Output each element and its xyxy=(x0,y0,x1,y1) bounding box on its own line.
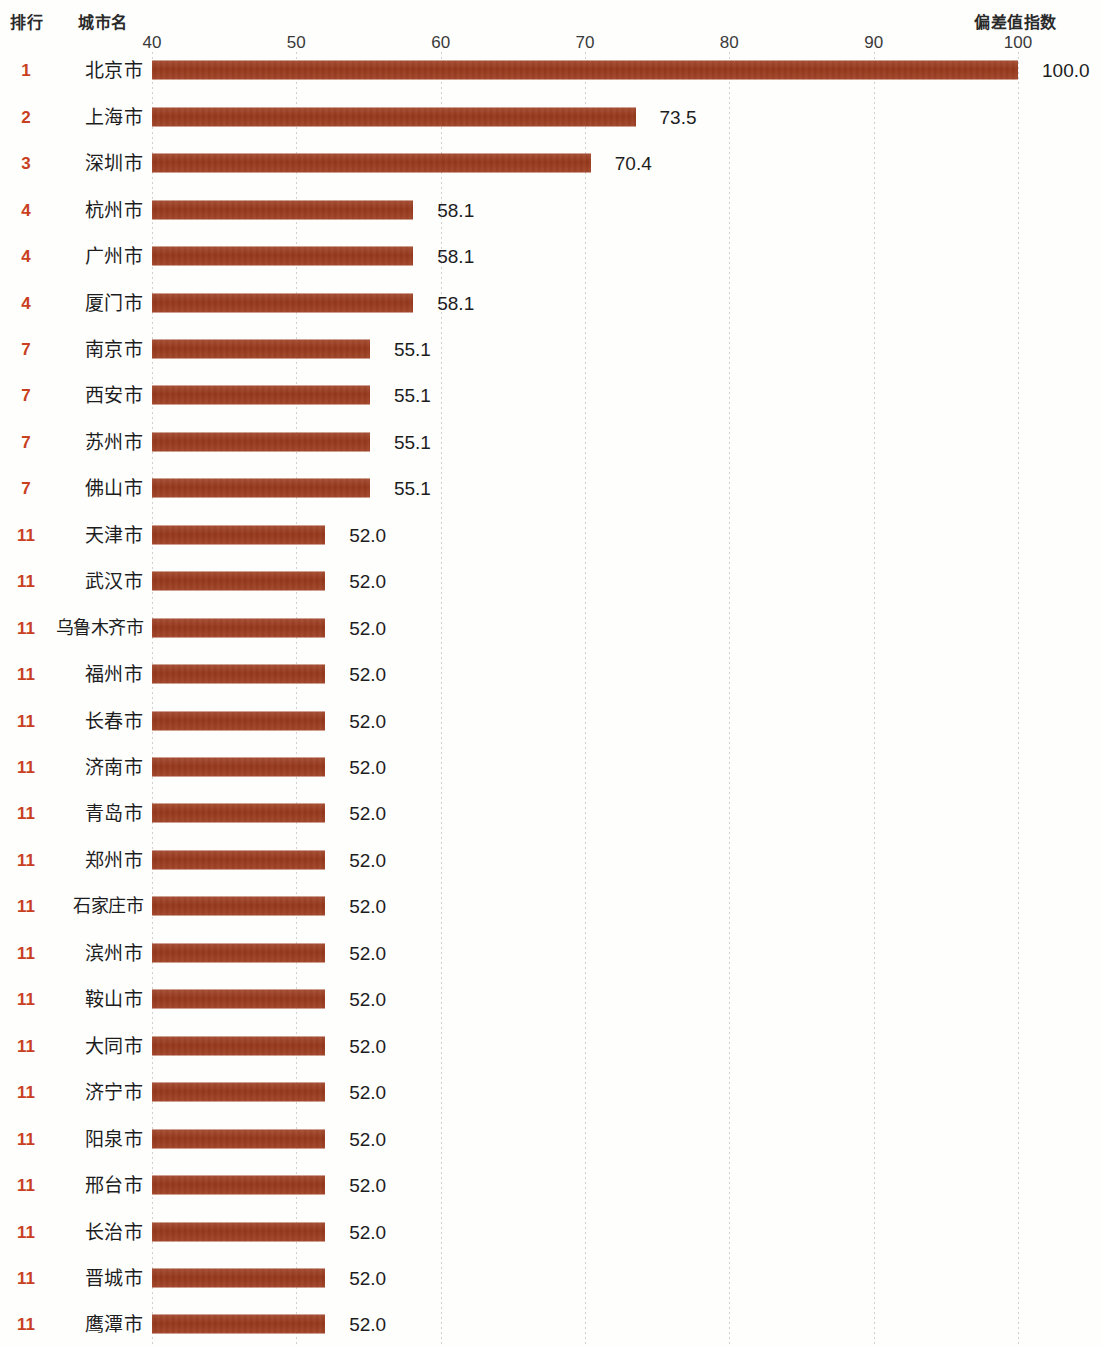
ranking-chart-page: 排行 城市名 偏差值指数 405060708090100 1北京市100.02上… xyxy=(0,0,1103,1346)
row-bar[interactable] xyxy=(152,665,325,684)
row-value-label: 100.0 xyxy=(1042,61,1090,80)
row-bar[interactable] xyxy=(152,1176,325,1195)
row-bar[interactable] xyxy=(152,572,325,591)
row-bar[interactable] xyxy=(152,1268,325,1287)
row-bar[interactable] xyxy=(152,525,325,544)
row-city-name: 天津市 xyxy=(38,525,143,544)
row-city-name: 深圳市 xyxy=(38,154,143,173)
row-value-label: 55.1 xyxy=(394,479,431,498)
chart-row[interactable]: 11济南市52.0 xyxy=(0,744,1103,791)
row-bar[interactable] xyxy=(152,1315,325,1334)
row-bar[interactable] xyxy=(152,154,591,173)
row-bar[interactable] xyxy=(152,432,370,451)
row-value-label: 52.0 xyxy=(349,758,386,777)
chart-row[interactable]: 11滨州市52.0 xyxy=(0,930,1103,977)
row-bar[interactable] xyxy=(152,1083,325,1102)
column-header-metric: 偏差值指数 xyxy=(974,9,1057,33)
row-city-name: 北京市 xyxy=(38,61,143,80)
row-value-label: 52.0 xyxy=(349,897,386,916)
row-city-name: 大同市 xyxy=(38,1036,143,1055)
row-value-label: 52.0 xyxy=(349,1315,386,1334)
chart-row[interactable]: 7佛山市55.1 xyxy=(0,465,1103,512)
row-value-label: 52.0 xyxy=(349,1268,386,1287)
chart-row[interactable]: 11青岛市52.0 xyxy=(0,790,1103,837)
chart-row[interactable]: 7苏州市55.1 xyxy=(0,419,1103,466)
chart-row[interactable]: 11晋城市52.0 xyxy=(0,1255,1103,1302)
row-value-label: 52.0 xyxy=(349,1222,386,1241)
chart-row[interactable]: 11阳泉市52.0 xyxy=(0,1115,1103,1162)
chart-row[interactable]: 11乌鲁木齐市52.0 xyxy=(0,604,1103,651)
row-value-label: 52.0 xyxy=(349,711,386,730)
row-bar[interactable] xyxy=(152,247,413,266)
chart-row[interactable]: 11济宁市52.0 xyxy=(0,1069,1103,1116)
row-value-label: 52.0 xyxy=(349,1176,386,1195)
chart-plot-area: 1北京市100.02上海市73.53深圳市70.44杭州市58.14广州市58.… xyxy=(0,52,1103,1346)
row-bar[interactable] xyxy=(152,758,325,777)
row-bar[interactable] xyxy=(152,850,325,869)
row-value-label: 55.1 xyxy=(394,386,431,405)
row-bar[interactable] xyxy=(152,618,325,637)
chart-row[interactable]: 11长治市52.0 xyxy=(0,1208,1103,1255)
row-city-name: 长春市 xyxy=(38,711,143,730)
column-header-rank: 排行 xyxy=(10,9,43,33)
chart-row[interactable]: 1北京市100.0 xyxy=(0,47,1103,94)
chart-row[interactable]: 7西安市55.1 xyxy=(0,372,1103,419)
chart-row[interactable]: 11大同市52.0 xyxy=(0,1022,1103,1069)
chart-row[interactable]: 11福州市52.0 xyxy=(0,651,1103,698)
row-bar[interactable] xyxy=(152,479,370,498)
chart-row[interactable]: 11长春市52.0 xyxy=(0,697,1103,744)
row-bar[interactable] xyxy=(152,386,370,405)
row-city-name: 南京市 xyxy=(38,339,143,358)
chart-row[interactable]: 11邢台市52.0 xyxy=(0,1162,1103,1209)
row-value-label: 52.0 xyxy=(349,525,386,544)
row-value-label: 52.0 xyxy=(349,850,386,869)
row-bar[interactable] xyxy=(152,804,325,823)
row-city-name: 鞍山市 xyxy=(38,990,143,1009)
chart-row[interactable]: 11天津市52.0 xyxy=(0,512,1103,559)
row-bar[interactable] xyxy=(152,1222,325,1241)
row-value-label: 58.1 xyxy=(437,200,474,219)
row-city-name: 苏州市 xyxy=(38,432,143,451)
row-city-name: 滨州市 xyxy=(38,943,143,962)
chart-row[interactable]: 4厦门市58.1 xyxy=(0,279,1103,326)
row-value-label: 52.0 xyxy=(349,572,386,591)
row-bar[interactable] xyxy=(152,711,325,730)
row-bar[interactable] xyxy=(152,107,636,126)
row-bar[interactable] xyxy=(152,990,325,1009)
row-value-label: 52.0 xyxy=(349,990,386,1009)
row-value-label: 73.5 xyxy=(660,107,697,126)
row-value-label: 52.0 xyxy=(349,618,386,637)
row-value-label: 52.0 xyxy=(349,804,386,823)
row-city-name: 石家庄市 xyxy=(38,897,143,915)
chart-row[interactable]: 11郑州市52.0 xyxy=(0,837,1103,884)
chart-row[interactable]: 4广州市58.1 xyxy=(0,233,1103,280)
row-city-name: 武汉市 xyxy=(38,572,143,591)
row-bar[interactable] xyxy=(152,943,325,962)
chart-row[interactable]: 3深圳市70.4 xyxy=(0,140,1103,187)
row-city-name: 鹰潭市 xyxy=(38,1315,143,1334)
row-city-name: 青岛市 xyxy=(38,804,143,823)
row-bar[interactable] xyxy=(152,339,370,358)
row-value-label: 58.1 xyxy=(437,293,474,312)
chart-row[interactable]: 11石家庄市52.0 xyxy=(0,883,1103,930)
row-bar[interactable] xyxy=(152,1129,325,1148)
row-city-name: 佛山市 xyxy=(38,479,143,498)
row-bar[interactable] xyxy=(152,200,413,219)
row-city-name: 广州市 xyxy=(38,247,143,266)
row-bar[interactable] xyxy=(152,61,1018,80)
chart-row[interactable]: 2上海市73.5 xyxy=(0,93,1103,140)
chart-row[interactable]: 7南京市55.1 xyxy=(0,326,1103,373)
row-value-label: 52.0 xyxy=(349,665,386,684)
chart-row[interactable]: 11鹰潭市52.0 xyxy=(0,1301,1103,1346)
row-value-label: 55.1 xyxy=(394,339,431,358)
row-city-name: 晋城市 xyxy=(38,1268,143,1287)
row-value-label: 52.0 xyxy=(349,1083,386,1102)
row-bar[interactable] xyxy=(152,897,325,916)
row-value-label: 70.4 xyxy=(615,154,652,173)
chart-row[interactable]: 4杭州市58.1 xyxy=(0,186,1103,233)
row-bar[interactable] xyxy=(152,1036,325,1055)
chart-row[interactable]: 11武汉市52.0 xyxy=(0,558,1103,605)
row-bar[interactable] xyxy=(152,293,413,312)
chart-row[interactable]: 11鞍山市52.0 xyxy=(0,976,1103,1023)
row-value-label: 52.0 xyxy=(349,1036,386,1055)
